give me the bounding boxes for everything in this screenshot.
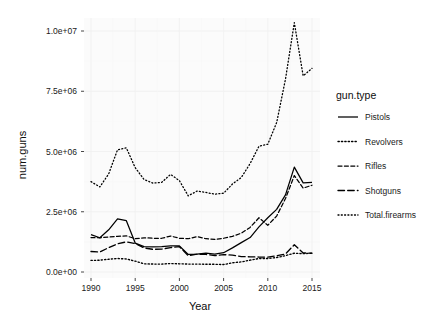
plot-panel [84, 18, 320, 278]
y-tick-label: 5.0e+06 [46, 147, 77, 157]
legend-title: gun.type [336, 89, 376, 101]
x-tick-label: 1990 [82, 283, 101, 293]
legend-label-rifles: Rifles [365, 161, 386, 171]
y-tick-label: 7.5e+06 [46, 86, 77, 96]
y-tick-label: 0.0e+00 [46, 267, 77, 277]
x-tick-label: 1995 [126, 283, 145, 293]
y-tick-label: 1.0e+07 [46, 26, 77, 36]
y-axis-title: num.guns [16, 130, 28, 179]
y-tick-label: 2.5e+06 [46, 207, 77, 217]
x-tick-label: 2000 [170, 283, 189, 293]
legend-label-total-firearms: Total.firearms [365, 210, 416, 220]
x-tick-label: 2015 [303, 283, 322, 293]
x-tick-label: 2005 [214, 283, 233, 293]
gun-sales-line-chart: 0.0e+002.5e+065.0e+067.5e+061.0e+07 1990… [0, 0, 443, 331]
legend-label-revolvers: Revolvers [365, 137, 403, 147]
x-axis-title: Year [189, 300, 212, 312]
chart-root: 0.0e+002.5e+065.0e+067.5e+061.0e+07 1990… [0, 0, 443, 331]
x-tick-label: 2010 [258, 283, 277, 293]
legend-label-shotguns: Shotguns [365, 186, 401, 196]
legend-label-pistols: Pistols [365, 112, 390, 122]
